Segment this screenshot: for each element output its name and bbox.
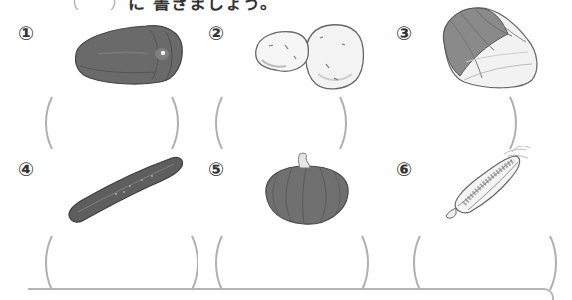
answer-input-4[interactable]: [74, 248, 178, 276]
item-4: ④: [8, 158, 198, 293]
answer-bracket: [198, 95, 388, 151]
answer-input-5[interactable]: [244, 248, 348, 276]
pumpkin-icon: [262, 152, 352, 232]
item-number: ②: [208, 22, 224, 44]
item-3: ③: [386, 22, 572, 157]
instruction-paren-close: ）: [110, 0, 128, 13]
potato-icon: [250, 20, 370, 96]
item-number: ⑥: [396, 158, 412, 180]
answer-bracket: [8, 234, 198, 290]
item-1: ①: [8, 22, 198, 157]
item-number: ④: [18, 158, 34, 180]
green-pepper-icon: [68, 22, 188, 92]
answer-bracket: [386, 234, 572, 290]
answer-input-3[interactable]: [396, 109, 500, 137]
instruction-paren-open: （: [62, 0, 80, 13]
answer-bracket: [198, 234, 388, 290]
item-number: ③: [396, 22, 412, 44]
answer-input-6[interactable]: [436, 248, 540, 276]
corn-icon: [442, 146, 538, 226]
instruction-label: に 書きましょう。: [128, 0, 278, 13]
item-5: ⑤: [198, 158, 388, 293]
item-number: ⑤: [208, 158, 224, 180]
section-divider: [28, 288, 554, 300]
item-2: ②: [198, 22, 388, 157]
instruction-text: （）に 書きましょう。: [62, 0, 278, 14]
cucumber-icon: [64, 154, 188, 230]
answer-bracket: [386, 95, 572, 151]
answer-bracket: [8, 95, 198, 151]
item-6: ⑥: [386, 158, 572, 293]
answer-input-1[interactable]: [70, 109, 174, 137]
answer-input-2[interactable]: [238, 109, 342, 137]
chinese-cabbage-icon: [436, 0, 546, 100]
item-number: ①: [18, 22, 34, 44]
